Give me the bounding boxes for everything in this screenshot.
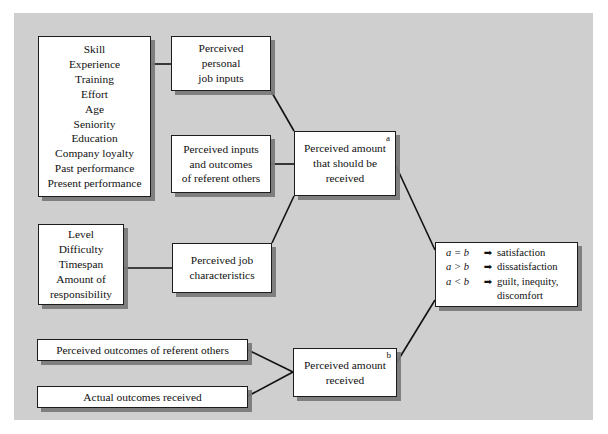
node-line: Perceived outcomes of referent others bbox=[41, 343, 244, 358]
node-tag-b: b bbox=[387, 351, 392, 360]
equity-result: satisfaction bbox=[497, 247, 545, 258]
perceived-amount-received-text: Perceived amount received bbox=[294, 358, 396, 388]
node-personal-inputs-list: Skill Experience Training Effort Age Sen… bbox=[38, 36, 151, 197]
actual-outcomes-received-text: Actual outcomes received bbox=[38, 390, 247, 405]
list-item: Skill bbox=[42, 42, 147, 57]
perceived-outcomes-referent-text: Perceived outcomes of referent others bbox=[38, 343, 247, 358]
equity-result: dissatisfaction bbox=[497, 261, 558, 272]
node-perceived-personal-job-inputs: Perceived personal job inputs bbox=[171, 36, 271, 91]
arrow-right-icon: ➡ bbox=[479, 275, 497, 289]
equity-row-continuation: discomfort bbox=[446, 289, 577, 303]
job-attrs-list-text: Level Difficulty Timespan Amount of resp… bbox=[39, 227, 123, 301]
list-item: Experience bbox=[42, 57, 147, 72]
list-item: responsibility bbox=[42, 287, 120, 302]
node-actual-outcomes-received: Actual outcomes received bbox=[37, 386, 248, 408]
list-item: Difficulty bbox=[42, 242, 120, 257]
list-item: Level bbox=[42, 227, 120, 242]
node-line: Perceived bbox=[175, 41, 267, 56]
node-line: Perceived amount bbox=[297, 358, 393, 373]
perceived-amount-should-text: Perceived amount that should be received bbox=[295, 141, 395, 185]
node-line: Actual outcomes received bbox=[41, 390, 244, 405]
node-line: personal bbox=[175, 56, 267, 71]
node-line: received bbox=[297, 373, 393, 388]
equity-row: a > b➡dissatisfaction bbox=[446, 260, 577, 274]
node-perceived-outcomes-of-referent-others: Perceived outcomes of referent others bbox=[37, 339, 248, 361]
node-perceived-job-characteristics: Perceived job characteristics bbox=[172, 243, 272, 293]
list-item: Company loyalty bbox=[42, 146, 147, 161]
equity-outcomes-list: a = b➡satisfaction a > b➡dissatisfaction… bbox=[436, 246, 577, 304]
list-item: Age bbox=[42, 102, 147, 117]
node-line: Perceived job bbox=[176, 253, 268, 268]
equity-row: a = b➡satisfaction bbox=[446, 246, 577, 260]
node-line: job inputs bbox=[175, 71, 267, 86]
node-line: received bbox=[298, 171, 392, 186]
perceived-job-characteristics-text: Perceived job characteristics bbox=[173, 253, 271, 283]
node-job-characteristics-list: Level Difficulty Timespan Amount of resp… bbox=[38, 224, 124, 305]
equity-relation: a < b bbox=[446, 275, 479, 289]
list-item: Past performance bbox=[42, 161, 147, 176]
arrow-right-icon: ➡ bbox=[479, 260, 497, 274]
node-line: of referent others bbox=[175, 171, 267, 186]
list-item: Present performance bbox=[42, 176, 147, 191]
diagram-canvas: Skill Experience Training Effort Age Sen… bbox=[0, 0, 608, 434]
personal-inputs-list-text: Skill Experience Training Effort Age Sen… bbox=[39, 42, 150, 190]
node-line: and outcomes bbox=[175, 157, 267, 172]
list-item: Training bbox=[42, 72, 147, 87]
node-tag-a: a bbox=[386, 134, 390, 143]
node-line: characteristics bbox=[176, 268, 268, 283]
equity-relation: a = b bbox=[446, 246, 479, 260]
list-item: Effort bbox=[42, 87, 147, 102]
equity-result: guilt, inequity, bbox=[497, 276, 558, 287]
node-line: Perceived amount bbox=[298, 141, 392, 156]
perceived-inputs-outcomes-referent-text: Perceived inputs and outcomes of referen… bbox=[172, 142, 270, 186]
node-line: that should be bbox=[298, 156, 392, 171]
node-equity-outcomes: a = b➡satisfaction a > b➡dissatisfaction… bbox=[435, 242, 578, 307]
list-item: Timespan bbox=[42, 257, 120, 272]
node-line: Perceived inputs bbox=[175, 142, 267, 157]
equity-relation: a > b bbox=[446, 260, 479, 274]
arrow-right-icon: ➡ bbox=[479, 246, 497, 260]
node-perceived-amount-should-be-received: a Perceived amount that should be receiv… bbox=[294, 131, 396, 196]
node-perceived-inputs-outcomes-referent: Perceived inputs and outcomes of referen… bbox=[171, 135, 271, 193]
perceived-personal-job-inputs-text: Perceived personal job inputs bbox=[172, 41, 270, 85]
list-item: Education bbox=[42, 131, 147, 146]
list-item: Seniority bbox=[42, 117, 147, 132]
node-perceived-amount-received: b Perceived amount received bbox=[293, 348, 397, 397]
equity-row: a < b➡guilt, inequity, bbox=[446, 275, 577, 289]
list-item: Amount of bbox=[42, 272, 120, 287]
